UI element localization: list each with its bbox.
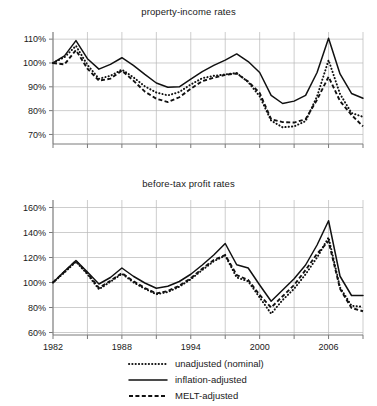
y-tick-label: 80% xyxy=(28,303,46,313)
plot-area-bottom: 60%80%100%120%140%160%198219881994200020… xyxy=(0,172,377,350)
x-tick-label: 2006 xyxy=(319,342,339,350)
y-tick-label: 140% xyxy=(23,228,46,238)
y-tick-label: 90% xyxy=(28,82,46,92)
legend-item-melt-adjusted: MELT-adjusted xyxy=(128,388,238,404)
y-tick-label: 110% xyxy=(24,34,46,44)
legend-label-inflation-adjusted: inflation-adjusted xyxy=(175,374,247,386)
plot-area-top: 70%80%90%100%110% xyxy=(0,0,377,172)
legend-swatch-solid xyxy=(128,374,168,386)
series-line-dashed xyxy=(53,241,363,311)
legend-swatch-dotted xyxy=(128,358,168,370)
series-line-dotted xyxy=(53,238,363,314)
y-tick-label: 120% xyxy=(23,253,46,263)
y-tick-label: 100% xyxy=(23,58,46,68)
y-tick-label: 60% xyxy=(28,328,46,338)
figure-root: property-income rates 70%80%90%100%110% … xyxy=(0,0,377,406)
series-line-dashed xyxy=(53,50,363,126)
chart-legend: unadjusted (nominal) inflation-adjusted … xyxy=(0,352,377,406)
chart-panel-property-income: property-income rates 70%80%90%100%110% xyxy=(0,0,377,172)
y-tick-label: 100% xyxy=(23,278,46,288)
y-tick-label: 160% xyxy=(23,203,46,213)
legend-item-unadjusted: unadjusted (nominal) xyxy=(128,356,264,372)
y-tick-label: 70% xyxy=(28,130,46,140)
x-tick-label: 1988 xyxy=(112,342,132,350)
chart-panel-before-tax-profit: before-tax profit rates 60%80%100%120%14… xyxy=(0,172,377,350)
x-tick-label: 1982 xyxy=(43,342,63,350)
series-line-solid xyxy=(53,38,363,103)
x-tick-label: 2000 xyxy=(250,342,270,350)
legend-swatch-dashed xyxy=(128,390,168,402)
legend-label-unadjusted: unadjusted (nominal) xyxy=(175,358,264,370)
x-tick-label: 1994 xyxy=(181,342,201,350)
plot-svg-bottom: 60%80%100%120%140%160%198219881994200020… xyxy=(0,172,377,350)
y-tick-label: 80% xyxy=(28,106,46,116)
legend-item-inflation-adjusted: inflation-adjusted xyxy=(128,372,247,388)
legend-label-melt-adjusted: MELT-adjusted xyxy=(175,390,238,402)
plot-svg-top: 70%80%90%100%110% xyxy=(0,0,377,172)
